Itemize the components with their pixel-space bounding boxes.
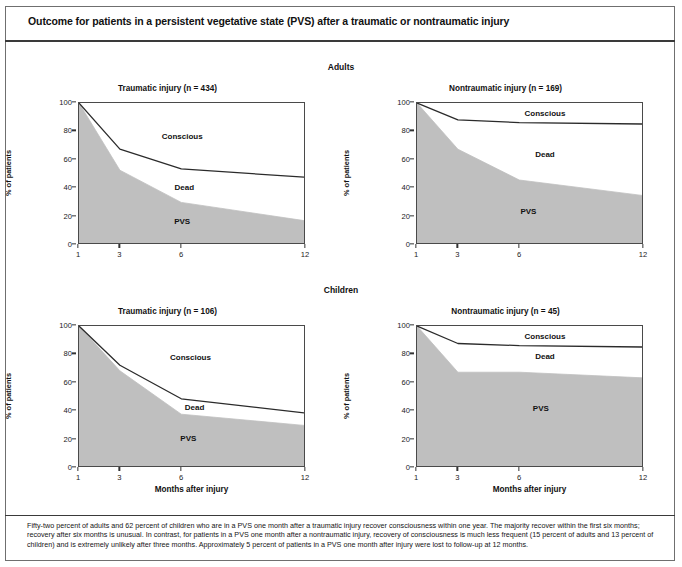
line-dead-conscious-boundary: [417, 326, 642, 347]
x-tick-label: 3: [455, 250, 459, 259]
x-tick-mark: [519, 467, 520, 471]
chart-title-children-nontraumatic: Nontraumatic injury (n = 45): [368, 307, 643, 316]
x-tick-label: 1: [76, 473, 80, 482]
line-dead-conscious-boundary: [417, 103, 642, 124]
y-axis-children-nontraumatic: 020406080100% of patients: [368, 325, 414, 467]
y-tick-mark: [410, 410, 414, 411]
x-tick-mark: [519, 244, 520, 248]
x-tick-label: 1: [414, 473, 418, 482]
x-tick-mark: [457, 467, 458, 471]
x-tick-label: 1: [76, 250, 80, 259]
x-tick-mark: [181, 244, 182, 248]
figure-title-bar: Outcome for patients in a persistent veg…: [6, 7, 674, 27]
y-tick-mark: [410, 381, 414, 382]
plot-area-adults-traumatic: ConsciousDeadPVS: [78, 102, 305, 244]
chart-panel-children-nontraumatic: Nontraumatic injury (n = 45)020406080100…: [368, 307, 643, 495]
chart-title-adults-nontraumatic: Nontraumatic injury (n = 169): [368, 84, 643, 93]
x-tick-mark: [77, 467, 78, 471]
x-axis-label: Months after injury: [416, 485, 643, 494]
y-tick-mark: [410, 438, 414, 439]
area-pvs: [79, 103, 304, 243]
y-axis-adults-traumatic: 020406080100% of patients: [30, 102, 76, 244]
x-tick-label: 3: [117, 250, 121, 259]
footnote-divider: [5, 515, 675, 516]
y-tick-mark: [410, 243, 414, 244]
y-axis-label: % of patients: [4, 123, 13, 223]
y-tick-mark: [72, 101, 76, 102]
y-tick-mark: [410, 215, 414, 216]
x-tick-mark: [304, 244, 305, 248]
x-axis-adults-traumatic: 13612: [78, 244, 305, 262]
y-tick-mark: [410, 101, 414, 102]
x-tick-mark: [119, 244, 120, 248]
x-tick-label: 12: [301, 473, 309, 482]
group-heading-adults: Adults: [0, 62, 682, 72]
x-tick-mark: [304, 467, 305, 471]
y-axis-label: % of patients: [342, 123, 351, 223]
x-tick-label: 6: [517, 250, 521, 259]
x-axis-label: Months after injury: [78, 485, 305, 494]
y-axis-children-traumatic: 020406080100% of patients: [30, 325, 76, 467]
x-tick-label: 6: [179, 250, 183, 259]
y-tick-mark: [72, 187, 76, 188]
plot-area-adults-nontraumatic: ConsciousDeadPVS: [416, 102, 643, 244]
figure-footnote: Fifty-two percent of adults and 62 perce…: [27, 521, 657, 549]
x-tick-label: 3: [455, 473, 459, 482]
y-tick-mark: [72, 466, 76, 467]
y-tick-mark: [410, 158, 414, 159]
y-tick-mark: [410, 466, 414, 467]
x-tick-mark: [181, 467, 182, 471]
chart-panel-children-traumatic: Traumatic injury (n = 106)020406080100% …: [30, 307, 305, 495]
x-tick-mark: [119, 467, 120, 471]
chart-panel-adults-traumatic: Traumatic injury (n = 434)020406080100% …: [30, 84, 305, 272]
y-tick-mark: [72, 130, 76, 131]
x-tick-mark: [642, 467, 643, 471]
y-tick-mark: [72, 381, 76, 382]
x-tick-mark: [415, 467, 416, 471]
x-tick-label: 6: [517, 473, 521, 482]
x-axis-children-traumatic: 13612: [78, 467, 305, 485]
area-pvs: [79, 326, 304, 466]
x-axis-adults-nontraumatic: 13612: [416, 244, 643, 262]
plot-area-children-nontraumatic: ConsciousDeadPVS: [416, 325, 643, 467]
page-title: Outcome for patients in a persistent veg…: [6, 7, 674, 27]
x-tick-mark: [77, 244, 78, 248]
y-tick-mark: [72, 353, 76, 354]
y-tick-mark: [410, 353, 414, 354]
title-divider: [5, 40, 675, 42]
x-axis-children-nontraumatic: 13612: [416, 467, 643, 485]
y-tick-mark: [410, 130, 414, 131]
x-tick-label: 6: [179, 473, 183, 482]
chart-panel-adults-nontraumatic: Nontraumatic injury (n = 169)02040608010…: [368, 84, 643, 272]
x-tick-label: 1: [414, 250, 418, 259]
y-axis-label: % of patients: [342, 346, 351, 446]
y-tick-mark: [410, 324, 414, 325]
y-axis-adults-nontraumatic: 020406080100% of patients: [368, 102, 414, 244]
x-tick-label: 12: [639, 250, 647, 259]
y-tick-mark: [72, 410, 76, 411]
y-tick-mark: [72, 243, 76, 244]
y-axis-label: % of patients: [4, 346, 13, 446]
group-heading-children: Children: [0, 285, 682, 295]
x-tick-mark: [415, 244, 416, 248]
chart-title-adults-traumatic: Traumatic injury (n = 434): [30, 84, 305, 93]
x-tick-label: 12: [301, 250, 309, 259]
x-tick-mark: [642, 244, 643, 248]
x-tick-label: 3: [117, 473, 121, 482]
x-tick-mark: [457, 244, 458, 248]
y-tick-mark: [72, 324, 76, 325]
x-tick-label: 12: [639, 473, 647, 482]
y-tick-mark: [72, 215, 76, 216]
y-tick-mark: [72, 158, 76, 159]
y-tick-mark: [72, 438, 76, 439]
chart-title-children-traumatic: Traumatic injury (n = 106): [30, 307, 305, 316]
y-tick-mark: [410, 187, 414, 188]
plot-area-children-traumatic: ConsciousDeadPVS: [78, 325, 305, 467]
